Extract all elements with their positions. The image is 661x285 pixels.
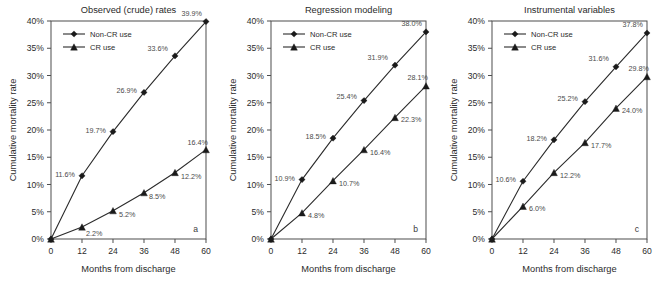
- x-tick-label: 24: [549, 246, 559, 256]
- x-tick-label: 48: [170, 246, 180, 256]
- y-tick-label: 40%: [27, 16, 45, 26]
- triangle-marker-icon: [110, 207, 117, 213]
- y-tick-label: 10%: [467, 180, 485, 190]
- data-point-label: 25.2%: [557, 94, 578, 103]
- series-line-non-cr-use: [492, 33, 647, 239]
- y-tick-label: 0%: [32, 234, 45, 244]
- x-tick-label: 12: [298, 246, 308, 256]
- data-point-label: 10.7%: [339, 179, 360, 188]
- legend-label: CR use: [310, 43, 335, 52]
- y-tick-label: 5%: [472, 207, 485, 217]
- data-point-label: 6.0%: [529, 204, 546, 213]
- y-axis-label: Cumulative mortality rate: [8, 79, 18, 182]
- diamond-marker-icon: [71, 31, 77, 37]
- data-point-label: 37.8%: [622, 20, 643, 29]
- triangle-marker-icon: [423, 83, 430, 89]
- y-axis-label: Cumulative mortality rate: [449, 79, 459, 182]
- y-tick-label: 30%: [27, 71, 45, 81]
- data-point-label: 17.7%: [591, 141, 612, 150]
- x-tick-label: 60: [642, 246, 652, 256]
- y-tick-label: 20%: [27, 125, 45, 135]
- data-point-label: 33.6%: [148, 44, 169, 53]
- y-tick-label: 15%: [27, 152, 45, 162]
- x-axis-label: Months from discharge: [302, 264, 396, 274]
- legend-label: Non-CR use: [531, 30, 573, 39]
- y-tick-label: 20%: [467, 125, 485, 135]
- data-point-label: 31.9%: [368, 53, 389, 62]
- series-line-non-cr-use: [271, 32, 426, 239]
- data-point-label: 10.9%: [275, 174, 296, 183]
- data-point-label: 19.7%: [86, 126, 107, 135]
- x-tick-label: 60: [422, 246, 432, 256]
- data-point-label: 4.8%: [308, 211, 325, 220]
- legend-label: Non-CR use: [90, 30, 132, 39]
- series-line-non-cr-use: [51, 22, 206, 239]
- y-tick-label: 35%: [247, 43, 265, 53]
- y-tick-label: 20%: [247, 125, 265, 135]
- data-point-label: 39.9%: [182, 9, 203, 18]
- y-tick-label: 40%: [247, 16, 265, 26]
- panel-title: Observed (crude) rates: [81, 5, 177, 15]
- plot-frame: [51, 21, 206, 239]
- data-point-label: 5.2%: [119, 210, 136, 219]
- legend-label: CR use: [531, 43, 556, 52]
- series-line-cr-use: [271, 86, 426, 239]
- x-tick-label: 0: [269, 246, 274, 256]
- panel-letter: c: [634, 224, 639, 234]
- y-tick-label: 35%: [467, 43, 485, 53]
- y-tick-label: 0%: [472, 234, 485, 244]
- panel-title: Regression modeling: [305, 5, 392, 15]
- triangle-marker-icon: [643, 73, 650, 79]
- data-point-label: 24.0%: [622, 106, 643, 115]
- panel-letter: a: [193, 224, 198, 234]
- y-tick-label: 5%: [32, 207, 45, 217]
- chart-panel-a: 0%5%10%15%20%25%30%35%40%01224364860Obse…: [0, 0, 220, 285]
- three-panel-mortality-figure: 0%5%10%15%20%25%30%35%40%01224364860Obse…: [0, 0, 661, 285]
- y-tick-label: 30%: [467, 71, 485, 81]
- y-tick-label: 10%: [247, 180, 265, 190]
- x-tick-label: 48: [391, 246, 401, 256]
- x-tick-label: 0: [49, 246, 54, 256]
- y-tick-label: 0%: [252, 234, 265, 244]
- y-tick-label: 30%: [247, 71, 265, 81]
- diamond-marker-icon: [291, 31, 297, 37]
- x-axis-label: Months from discharge: [522, 264, 616, 274]
- data-point-label: 12.2%: [181, 172, 202, 181]
- triangle-marker-icon: [79, 224, 86, 230]
- legend-label: Non-CR use: [310, 30, 352, 39]
- y-tick-label: 25%: [27, 98, 45, 108]
- panel-title: Instrumental variables: [524, 5, 615, 15]
- legend-label: CR use: [90, 43, 115, 52]
- x-tick-label: 12: [518, 246, 528, 256]
- data-point-label: 16.4%: [370, 148, 391, 157]
- data-point-label: 10.6%: [495, 175, 516, 184]
- x-tick-label: 12: [77, 246, 87, 256]
- x-tick-label: 36: [360, 246, 370, 256]
- data-point-label: 18.5%: [306, 132, 327, 141]
- data-point-label: 38.0%: [402, 19, 423, 28]
- x-tick-label: 0: [489, 246, 494, 256]
- data-point-label: 16.4%: [188, 138, 209, 147]
- x-axis-label: Months from discharge: [81, 264, 175, 274]
- x-tick-label: 48: [611, 246, 621, 256]
- series-line-cr-use: [51, 150, 206, 239]
- y-tick-label: 40%: [467, 16, 485, 26]
- chart-panel-b: 0%5%10%15%20%25%30%35%40%01224364860Regr…: [220, 0, 440, 285]
- x-tick-label: 60: [201, 246, 211, 256]
- y-axis-label: Cumulative mortality rate: [228, 79, 238, 182]
- data-point-label: 12.2%: [560, 171, 581, 180]
- data-point-label: 26.9%: [117, 86, 138, 95]
- y-tick-label: 5%: [252, 207, 265, 217]
- panel-letter: b: [414, 224, 419, 234]
- chart-panel-c: 0%5%10%15%20%25%30%35%40%01224364860Inst…: [441, 0, 661, 285]
- data-point-label: 25.4%: [337, 92, 358, 101]
- x-tick-label: 36: [139, 246, 149, 256]
- y-tick-label: 15%: [467, 152, 485, 162]
- y-tick-label: 25%: [247, 98, 265, 108]
- data-point-label: 28.1%: [408, 73, 429, 82]
- x-tick-label: 36: [580, 246, 590, 256]
- data-point-label: 11.6%: [55, 170, 75, 179]
- y-tick-label: 35%: [27, 43, 45, 53]
- plot-frame: [271, 21, 426, 239]
- diamond-marker-icon: [512, 31, 518, 37]
